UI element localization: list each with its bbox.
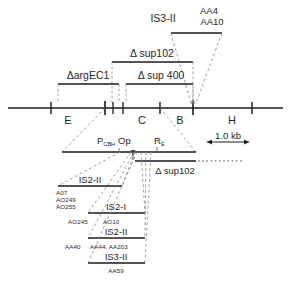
delta-sup102-lower-label: Δ sup102 <box>155 166 195 176</box>
insertion-row-4-name: IS3-II <box>105 252 128 262</box>
scale-bar-arrow-right <box>244 140 249 145</box>
argec1-bracket-group <box>58 84 119 103</box>
insertion-row-2-name: IS2-I <box>106 202 126 212</box>
delta-argec1-label: ΔargEC1 <box>67 70 110 81</box>
insertion-row-3-allele-0: AA40 <box>65 244 81 250</box>
regulator-letter: R <box>154 135 161 146</box>
site-label-E: E <box>64 115 71 126</box>
axis-marker-arrow <box>191 99 196 103</box>
is3-ii-top-label: IS3-II <box>150 13 175 24</box>
regulator-label: RE <box>154 136 165 146</box>
insertion-row-3-allele-1: AA44, AA203 <box>90 244 128 250</box>
insertion-row-3-name: IS2-II <box>105 227 128 237</box>
aa10-label: AA10 <box>200 17 223 27</box>
site-label-B: B <box>176 115 183 126</box>
site-label-C: C <box>138 115 146 126</box>
aa4-label: AA4 <box>200 6 218 16</box>
is3-top-bracket-group <box>171 33 222 103</box>
is3-top-wedge-right <box>196 33 222 103</box>
delta-sup400-label: Δ sup 400 <box>138 70 185 81</box>
insertion-row-2-allele-0: AO245 <box>68 219 88 225</box>
scale-bar-label: 1.0 kb <box>215 131 241 141</box>
promoter-label: PCBH <box>97 136 115 146</box>
insertion-row-1-allele-2: AO255 <box>56 204 76 210</box>
scale-bar-arrow-left <box>207 140 212 145</box>
insertion-row-2-allele-1: AO10 <box>103 219 119 225</box>
promoter-subscript: CBH <box>103 141 115 147</box>
row3-fan-right <box>145 152 146 238</box>
insertion-row-1-name: IS2-II <box>79 175 102 185</box>
regulator-subscript: E <box>161 141 165 147</box>
row1-fan-right <box>122 152 135 186</box>
map-vector-layer <box>0 0 291 282</box>
delta-sup102-label: Δ sup102 <box>130 48 174 59</box>
insertion-row-4-allele-0: AA59 <box>108 268 124 274</box>
restriction-axis-group <box>8 99 283 115</box>
site-label-H: H <box>228 115 236 126</box>
is3-top-wedge-left <box>171 33 191 103</box>
sup400-bracket-group <box>126 84 193 103</box>
operator-label: Op <box>118 136 131 146</box>
genetic-map-figure: IS3-II AA4 AA10 Δ sup102 ΔargEC1 Δ sup 4… <box>0 0 291 282</box>
